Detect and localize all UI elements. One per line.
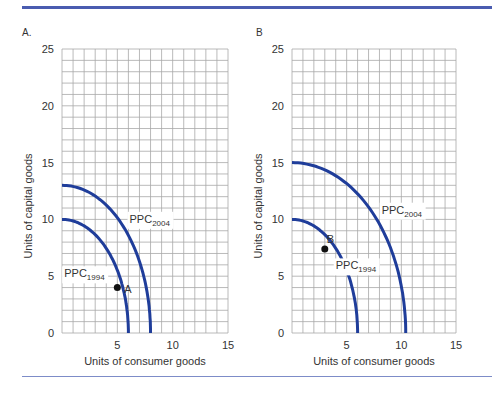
x-tick-label: 5 bbox=[344, 339, 350, 351]
point-label: A bbox=[124, 283, 132, 295]
x-tick-label: 5 bbox=[114, 339, 120, 351]
grid bbox=[292, 49, 456, 333]
y-tick-label: 10 bbox=[272, 213, 284, 225]
point-label: B bbox=[327, 233, 334, 245]
figure: A.051015202551015Units of consumer goods… bbox=[0, 0, 503, 393]
y-axis-label: Units of capital goods bbox=[22, 153, 34, 259]
y-tick-label: 5 bbox=[278, 270, 284, 282]
point-a bbox=[114, 284, 121, 291]
y-tick-label: 15 bbox=[42, 157, 54, 169]
point-b bbox=[321, 245, 328, 252]
x-tick-label: 10 bbox=[167, 339, 179, 351]
y-tick-label: 0 bbox=[278, 327, 284, 339]
y-tick-label: 20 bbox=[272, 100, 284, 112]
chart-panel-a: A.051015202551015Units of consumer goods… bbox=[22, 27, 234, 367]
x-tick-label: 15 bbox=[222, 339, 234, 351]
y-tick-label: 25 bbox=[42, 43, 54, 55]
y-tick-label: 5 bbox=[48, 270, 54, 282]
x-axis-label: Units of consumer goods bbox=[313, 355, 435, 367]
x-tick-label: 10 bbox=[395, 339, 407, 351]
y-tick-label: 20 bbox=[42, 100, 54, 112]
x-axis-label: Units of consumer goods bbox=[84, 355, 206, 367]
y-tick-label: 15 bbox=[272, 157, 284, 169]
panel-label: A. bbox=[22, 27, 31, 38]
chart-panel-b: B051015202551015Units of consumer goodsU… bbox=[252, 27, 462, 367]
y-axis-label: Units of capital goods bbox=[252, 153, 264, 259]
y-tick-label: 0 bbox=[48, 327, 54, 339]
y-tick-label: 25 bbox=[272, 43, 284, 55]
curve-ppc2004 bbox=[292, 163, 406, 333]
panel-label: B bbox=[256, 27, 263, 38]
y-tick-label: 10 bbox=[42, 213, 54, 225]
x-tick-label: 15 bbox=[450, 339, 462, 351]
